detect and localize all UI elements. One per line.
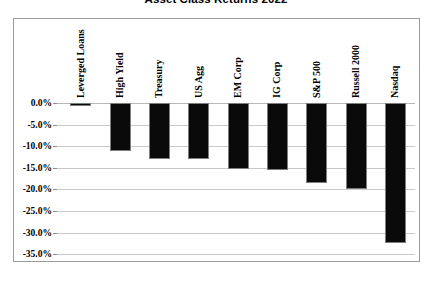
bar (110, 103, 131, 151)
bar-group: US Agg (188, 19, 209, 261)
bar-group: Nasdaq (385, 19, 406, 261)
bar-category-label: High Yield (115, 52, 125, 98)
chart-title-clip: Asset Class Returns 2022 (0, 0, 432, 7)
bar (306, 103, 327, 183)
bar-category-label: EM Corp (233, 57, 243, 98)
bar-category-label: Russell 2000 (351, 45, 361, 98)
bar-group: Leverged Loans (70, 19, 91, 261)
bar-group: Russell 2000 (346, 19, 367, 261)
bar-group: IG Corp (267, 19, 288, 261)
bar-group: S&P 500 (306, 19, 327, 261)
bar-category-label: S&P 500 (312, 61, 322, 98)
chart-container: Asset Class Returns 2022 0.0%-5.0%-10.0%… (0, 0, 432, 282)
bar (385, 103, 406, 243)
bar-category-label: Leverged Loans (76, 29, 86, 98)
plot-frame: 0.0%-5.0%-10.0%-15.0%-20.0%-25.0%-30.0%-… (13, 18, 420, 262)
bar-group: High Yield (110, 19, 131, 261)
bar-group: Treasury (149, 19, 170, 261)
bar (346, 103, 367, 189)
chart-title: Asset Class Returns 2022 (0, 0, 432, 6)
bar (267, 103, 288, 170)
bar (228, 103, 249, 169)
bar-category-label: Treasury (154, 59, 164, 98)
bar (70, 103, 91, 106)
bar-group: EM Corp (228, 19, 249, 261)
bar-category-label: Nasdaq (390, 66, 400, 98)
bar (149, 103, 170, 159)
bar-category-label: US Agg (194, 66, 204, 98)
bar (188, 103, 209, 159)
bars: Leverged LoansHigh YieldTreasuryUS AggEM… (14, 19, 419, 261)
bar-category-label: IG Corp (272, 62, 282, 98)
plot-area: 0.0%-5.0%-10.0%-15.0%-20.0%-25.0%-30.0%-… (14, 19, 419, 261)
